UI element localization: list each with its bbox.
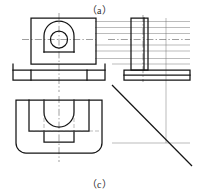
right-rib-outline — [131, 18, 148, 70]
top-view-construction-group — [29, 100, 102, 142]
front-base-notch-right — [87, 70, 105, 80]
centre-lines-group — [22, 13, 190, 162]
diagonal-leader-line — [112, 85, 192, 166]
technical-drawing-canvas — [0, 0, 199, 196]
drawing-sheet: （a） — [0, 0, 199, 196]
front-boss-arch-outer — [44, 21, 74, 52]
top-view — [16, 100, 102, 153]
front-body-outline — [31, 18, 96, 64]
front-base-notch-left — [13, 70, 31, 80]
figure-caption-bottom: （c） — [0, 176, 199, 191]
